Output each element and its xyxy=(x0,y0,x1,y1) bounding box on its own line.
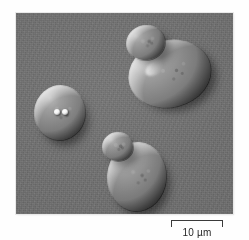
micrograph-figure: 10 µm xyxy=(0,0,249,240)
scale-bar-tick-right xyxy=(222,220,223,227)
scale-bar-tick-left xyxy=(171,220,172,227)
scale-bar xyxy=(171,220,223,227)
micrograph-image-panel xyxy=(16,13,233,214)
cell-dic-shadow xyxy=(102,132,134,162)
yeast-cell-lower-bud xyxy=(103,133,133,161)
scale-bar-rule xyxy=(171,220,223,221)
refractile-spot-left xyxy=(54,109,60,115)
scale-bar-label: 10 µm xyxy=(156,227,238,239)
refractile-spot-right xyxy=(62,109,68,115)
